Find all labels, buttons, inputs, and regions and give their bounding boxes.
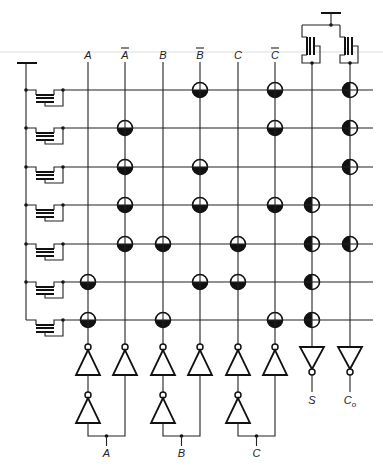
or-plane-node [343,160,358,175]
and-plane-node [193,198,208,213]
and-plane-node [81,313,96,328]
and-plane-node [231,237,246,252]
signal-labels: AABBCCABCSCo [83,48,356,459]
or-plane-node [343,83,358,98]
column-label-Cbar: C [271,49,279,61]
inverter-icon [188,344,212,375]
pullup-transistor [26,318,65,336]
and-plane-node [193,83,208,98]
and-plane-node [268,313,283,328]
output-inverter-S [300,347,324,392]
inverter-icon [151,344,175,375]
column-label-Bbar: B [196,49,203,61]
and-plane-node [118,237,133,252]
inverter-icon [151,392,175,423]
and-plane-node [268,83,283,98]
and-plane-node [118,160,133,175]
or-plane-node [305,198,320,213]
or-plane-node [305,313,320,328]
or-plane-node [343,237,358,252]
and-plane-pullup-transistors [17,63,65,336]
inverter-icon [226,344,250,375]
or-plane-pullup-transistors [302,13,358,65]
pullup-transistor [24,165,65,183]
and-plane-node [118,121,133,136]
inverter-icon [76,344,100,375]
input-label-B: B [178,447,185,459]
and-plane-node [193,275,208,290]
column-label-Abar: A [120,49,128,61]
inverter-icon [76,392,100,423]
output-label-Co: Co [344,394,357,409]
and-plane-node [118,198,133,213]
output-pullup-transistor [302,25,320,65]
output-pullup-transistor [340,25,358,65]
pullup-transistor [24,88,65,106]
and-plane-node [268,198,283,213]
input-label-C: C [253,447,261,459]
and-plane-node [193,160,208,175]
and-plane-node [268,121,283,136]
pullup-transistor [24,280,65,298]
input-buffer-inverters [76,344,287,446]
input-label-A: A [102,447,110,459]
or-plane-node [305,237,320,252]
output-inverters [300,347,362,392]
and-plane-node [156,313,171,328]
inverter-icon [226,392,250,423]
output-inverter-Co [338,347,362,392]
pullup-transistor [24,203,65,221]
column-label-B: B [159,49,166,61]
pla-circuit-diagram: AABBCCABCSCo [0,0,383,469]
or-plane-node [305,275,320,290]
column-label-A: A [83,49,91,61]
or-plane-node [343,121,358,136]
and-plane-node [231,275,246,290]
column-label-C: C [234,49,242,61]
output-label-S: S [308,394,316,406]
pullup-transistor [24,126,65,144]
inverter-icon [113,344,137,375]
and-plane-node [81,275,96,290]
inverter-icon [263,344,287,375]
product-term-rows [63,90,373,320]
pullup-transistor [24,242,65,260]
and-plane-node [156,237,171,252]
